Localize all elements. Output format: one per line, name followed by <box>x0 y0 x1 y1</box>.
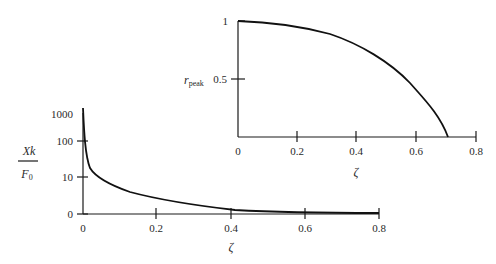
y-axis-label: rpeak <box>184 73 204 88</box>
y-axis-numerator: Xk <box>22 144 36 158</box>
x-tick-label: 0.8 <box>469 145 483 157</box>
y-tick-label: 0.5 <box>213 73 227 85</box>
x-tick-label: 0.4 <box>224 222 238 234</box>
y-tick-label: 10 <box>62 171 74 183</box>
y-axis-denominator: F0 <box>20 167 32 182</box>
x-tick-label: 0.6 <box>298 222 312 234</box>
amplitude-curve <box>83 108 379 213</box>
x-tick-label: 0 <box>80 222 86 234</box>
x-tick-label: 0 <box>235 145 241 157</box>
x-tick-label: 0.2 <box>149 222 163 234</box>
x-tick-label: 0.6 <box>409 145 423 157</box>
x-tick-label: 0.2 <box>290 145 304 157</box>
x-tick-label: 0.8 <box>372 222 386 234</box>
x-tick-label: 0.4 <box>349 145 363 157</box>
x-axis-label: ζ <box>354 165 360 179</box>
figure: 1 0.5 0 0.2 0.4 0.6 0.8 ζ rpeak 1000 100… <box>0 0 496 264</box>
r-peak-chart: 1 0.5 0 0.2 0.4 0.6 0.8 ζ rpeak <box>184 15 483 179</box>
r-peak-curve <box>238 21 448 137</box>
amplitude-chart: 1000 100 10 0 0 0.2 0.4 0.6 0.8 ζ Xk F0 <box>18 108 386 254</box>
y-tick-label: 1 <box>223 15 229 27</box>
x-axis-label: ζ <box>229 240 235 254</box>
y-tick-label: 0 <box>68 208 74 220</box>
y-tick-label: 100 <box>57 135 74 147</box>
y-tick-label: 1000 <box>51 108 74 120</box>
